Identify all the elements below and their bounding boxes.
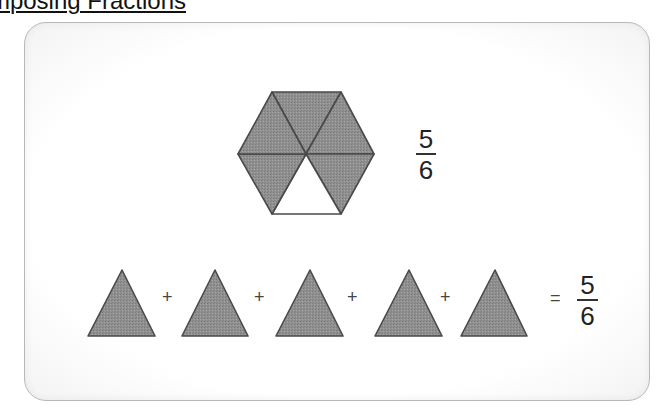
result-denominator: 6 [577, 304, 598, 328]
plus-sign-1: + [162, 288, 173, 306]
equals-sign: = [550, 289, 561, 307]
hexagon-shape [238, 92, 374, 214]
result-numerator: 5 [577, 273, 598, 297]
fraction-numerator: 5 [416, 127, 436, 151]
result-fraction: 5 6 [577, 273, 598, 328]
plus-sign-3: + [347, 288, 358, 306]
triangle-term-3 [276, 270, 343, 336]
plus-sign-4: + [440, 288, 451, 306]
triangle-term-1 [88, 270, 155, 336]
hexagon-fraction: 5 6 [416, 127, 436, 182]
triangle-term-4 [375, 270, 442, 336]
plus-sign-2: + [254, 288, 265, 306]
triangle-term-2 [182, 270, 248, 336]
fraction-illustration [0, 0, 667, 418]
triangle-term-5 [461, 270, 527, 336]
fraction-denominator: 6 [416, 158, 436, 182]
